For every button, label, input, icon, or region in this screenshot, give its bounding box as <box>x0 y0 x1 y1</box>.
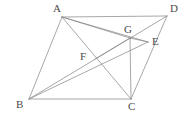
segment-GE <box>130 38 148 42</box>
segment-FG <box>95 38 130 59</box>
point-label-C: C <box>128 101 135 112</box>
point-label-D: D <box>170 3 178 14</box>
point-label-B: B <box>16 99 23 110</box>
segment-BE <box>29 42 148 99</box>
segment-AB <box>29 17 62 99</box>
segments-group <box>29 16 167 99</box>
point-label-F: F <box>80 51 86 62</box>
point-label-A: A <box>53 3 61 14</box>
point-label-G: G <box>124 24 132 35</box>
geometry-figure: ADBCGEF <box>0 0 192 119</box>
point-label-E: E <box>152 36 159 47</box>
segment-AG <box>62 17 130 38</box>
segment-AD <box>62 16 167 17</box>
geometry-canvas <box>0 0 192 119</box>
segment-CG <box>130 38 131 99</box>
segment-CD <box>131 16 167 99</box>
